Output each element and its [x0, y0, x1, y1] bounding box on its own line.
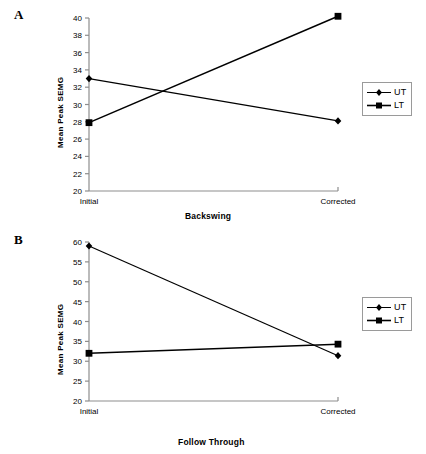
data-point-marker-square [86, 119, 93, 126]
y-axis-tick-label: 34 [73, 66, 82, 75]
x-axis-category-label: Corrected [320, 197, 355, 206]
y-axis-tick-label: 50 [73, 278, 82, 287]
y-axis-tick-label: 24 [73, 152, 82, 161]
data-point-marker-diamond [335, 117, 342, 124]
y-axis-tick-label: 45 [73, 298, 82, 307]
data-point-marker-square [86, 350, 93, 357]
data-point-marker-diamond [335, 352, 342, 359]
data-point-marker-diamond [86, 75, 93, 82]
y-axis-tick-label: 55 [73, 258, 82, 267]
x-axis-title-b: Follow Through [178, 437, 245, 447]
legend-marker-square-icon [366, 100, 392, 111]
data-line-lt [89, 344, 338, 353]
legend-item-lt: LT [366, 99, 406, 112]
y-axis-tick-label: 25 [73, 377, 82, 386]
y-axis-tick-label: 20 [73, 187, 82, 196]
y-axis-tick-label: 30 [73, 357, 82, 366]
data-line-ut [89, 79, 338, 121]
y-axis-tick-label: 26 [73, 135, 82, 144]
data-point-marker-diamond [86, 242, 93, 249]
figure-panel-a: A 2022242628303234363840InitialCorrected… [0, 0, 426, 227]
legend-label-lt: LT [392, 315, 404, 326]
figure-panel-b: B 202530354045505560InitialCorrected UT … [0, 215, 426, 454]
data-point-marker-square [335, 13, 342, 20]
legend-item-ut: UT [366, 301, 406, 314]
legend-label-lt: LT [392, 100, 404, 111]
legend-label-ut: UT [392, 87, 406, 98]
data-line-ut [89, 246, 338, 356]
x-axis-category-label: Initial [80, 407, 99, 416]
y-axis-tick-label: 20 [73, 397, 82, 406]
data-point-marker-square [335, 341, 342, 348]
y-axis-tick-label: 38 [73, 31, 82, 40]
y-axis-title-b: Mean Peak SEMG [56, 304, 65, 375]
y-axis-tick-label: 36 [73, 49, 82, 58]
legend-item-lt: LT [366, 314, 406, 327]
y-axis-tick-label: 30 [73, 101, 82, 110]
y-axis-tick-label: 32 [73, 83, 82, 92]
y-axis-tick-label: 40 [73, 318, 82, 327]
x-axis-category-label: Corrected [320, 407, 355, 416]
y-axis-tick-label: 28 [73, 118, 82, 127]
legend-marker-diamond-icon [366, 302, 392, 313]
data-line-lt [89, 16, 338, 122]
legend-item-ut: UT [366, 86, 406, 99]
y-axis-title-a: Mean Peak SEMG [56, 77, 65, 148]
y-axis-tick-label: 22 [73, 170, 82, 179]
y-axis-tick-label: 35 [73, 337, 82, 346]
y-axis-tick-label: 40 [73, 14, 82, 23]
legend-marker-square-icon [366, 315, 392, 326]
legend-marker-diamond-icon [366, 87, 392, 98]
y-axis-tick-label: 60 [73, 238, 82, 247]
legend-label-ut: UT [392, 302, 406, 313]
chart-legend-a: UT LT [362, 82, 412, 116]
chart-legend-b: UT LT [362, 297, 412, 331]
x-axis-category-label: Initial [80, 197, 99, 206]
